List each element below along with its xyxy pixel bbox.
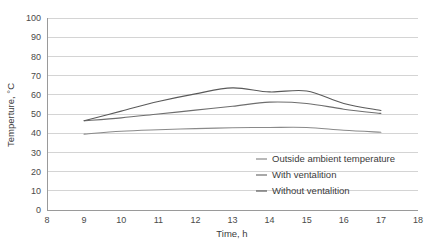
y-tick-label: 60	[31, 90, 41, 100]
y-tick-label: 90	[31, 32, 41, 42]
legend-label-1: With ventalition	[272, 169, 336, 180]
x-tick-label: 10	[116, 215, 126, 225]
series-line-1	[84, 102, 381, 121]
x-tick-label: 9	[82, 215, 87, 225]
gridlines-group	[47, 18, 418, 210]
y-tick-label: 80	[31, 52, 41, 62]
y-axis-title: Temperture, °C	[5, 83, 16, 147]
x-tick-label: 8	[44, 215, 49, 225]
x-tick-label: 14	[265, 215, 275, 225]
line-chart: 0102030405060708090100 89101112131415161…	[0, 0, 433, 252]
chart-container: 0102030405060708090100 89101112131415161…	[0, 0, 433, 252]
y-tick-label: 30	[31, 148, 41, 158]
x-tick-label: 17	[376, 215, 386, 225]
y-tick-labels-group: 0102030405060708090100	[26, 13, 41, 215]
series-line-2	[84, 88, 381, 121]
y-tick-label: 70	[31, 71, 41, 81]
y-tick-label: 0	[36, 205, 41, 215]
y-tick-label: 50	[31, 109, 41, 119]
x-tick-labels-group: 89101112131415161718	[44, 215, 423, 225]
x-axis-title: Time, h	[216, 228, 247, 239]
y-tick-label: 20	[31, 167, 41, 177]
x-tick-label: 15	[302, 215, 312, 225]
legend-label-2: Without ventalition	[272, 185, 350, 196]
chart-legend: Outside ambient temperatureWith ventalit…	[256, 153, 395, 196]
legend-label-0: Outside ambient temperature	[272, 153, 395, 164]
x-tick-label: 11	[154, 215, 163, 225]
x-tick-label: 16	[339, 215, 349, 225]
y-tick-label: 100	[26, 13, 41, 23]
x-tick-label: 18	[413, 215, 423, 225]
x-tick-label: 13	[227, 215, 237, 225]
y-tick-label: 40	[31, 128, 41, 138]
y-tick-label: 10	[31, 186, 41, 196]
x-tick-label: 12	[190, 215, 200, 225]
